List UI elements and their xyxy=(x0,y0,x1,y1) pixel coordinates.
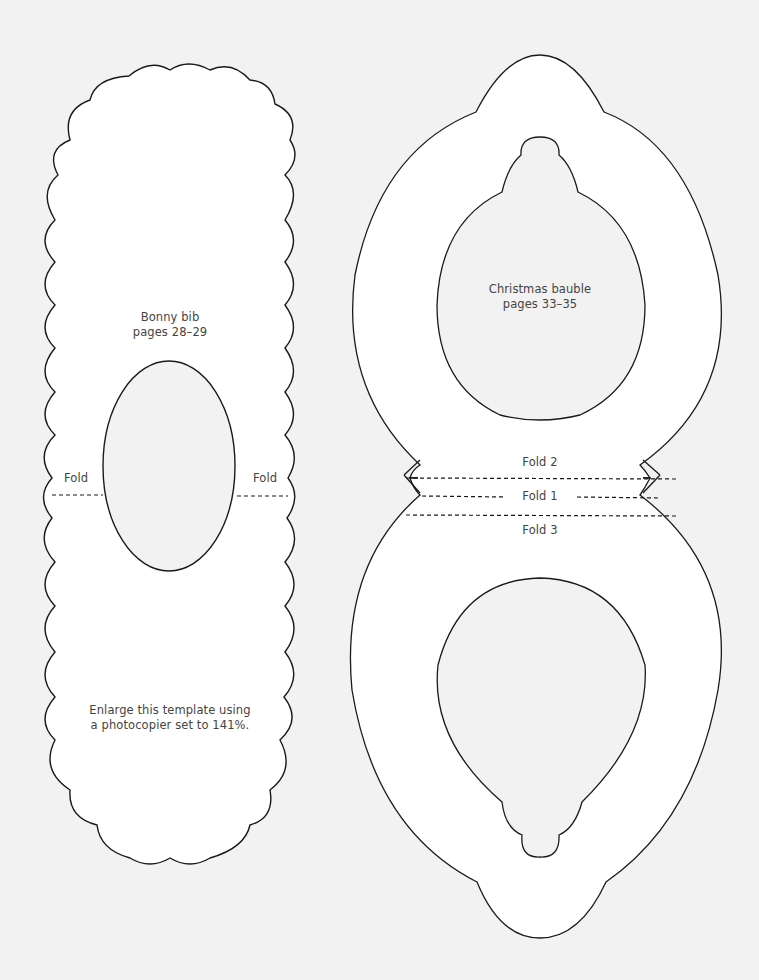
bib-neck-hole xyxy=(103,361,235,571)
bib-pages: pages 28–29 xyxy=(133,325,208,340)
bauble-title-label: Christmas bauble pages 33–35 xyxy=(489,282,591,312)
bib-instruction-line1: Enlarge this template using xyxy=(89,703,250,718)
bauble-title: Christmas bauble xyxy=(489,282,591,297)
bauble-fold2-label: Fold 2 xyxy=(522,455,557,470)
bib-title-label: Bonny bib pages 28–29 xyxy=(133,310,208,340)
bauble-pages: pages 33–35 xyxy=(489,297,591,312)
bib-instruction: Enlarge this template using a photocopie… xyxy=(89,703,250,733)
bib-template xyxy=(44,64,295,864)
bib-title: Bonny bib xyxy=(133,310,208,325)
bib-instruction-line2: a photocopier set to 141%. xyxy=(89,718,250,733)
bib-fold-right-label: Fold xyxy=(253,471,277,486)
bauble-fold1-label: Fold 1 xyxy=(522,489,557,504)
template-artwork xyxy=(0,0,759,980)
bauble-fold3-label: Fold 3 xyxy=(522,523,557,538)
bib-fold-left-label: Fold xyxy=(64,471,88,486)
template-page: Bonny bib pages 28–29 Fold Fold Enlarge … xyxy=(0,0,759,980)
